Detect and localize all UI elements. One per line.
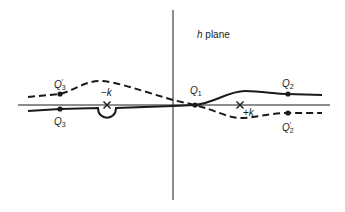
point-dot-Q2 [285, 91, 290, 96]
point-dot-Q3p [57, 91, 62, 96]
label-plus-k: +k [243, 108, 254, 118]
h-plane-diagram [0, 0, 345, 212]
point-dot-Q1 [192, 102, 197, 107]
dashed-contour [28, 81, 322, 118]
plane-label: h plane [197, 30, 230, 40]
plane-word: plane [203, 29, 230, 40]
label-minus-k: −k [101, 88, 112, 98]
point-dot-Q3 [57, 106, 62, 111]
point-dot-Q2p [285, 110, 290, 115]
label-Q2-prime: Q2′ [282, 121, 291, 134]
point-markers [57, 91, 290, 115]
label-Q3: Q3 [54, 117, 66, 128]
label-Q3-prime: Q3′ [54, 78, 63, 91]
label-Q1: Q1 [190, 86, 202, 97]
label-Q2: Q2 [282, 79, 294, 90]
